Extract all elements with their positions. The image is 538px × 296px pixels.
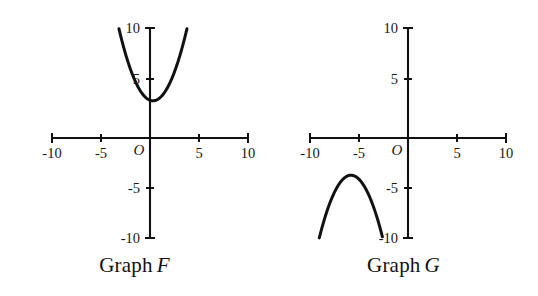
y-tick-label-neg10: -10 (121, 230, 140, 246)
graph-f-plot: -10 -5 5 10 10 5 -5 -10 O (0, 0, 269, 258)
x-tick-label-10: 10 (241, 145, 256, 161)
y-tick-label-neg5: -5 (128, 180, 140, 196)
x-tick-label-5: 5 (195, 145, 202, 161)
y-tick-label-5: 5 (391, 71, 398, 87)
y-tick-label-neg5: -5 (386, 180, 398, 196)
graph-f-tick-labels: -10 -5 5 10 10 5 -5 -10 O (42, 20, 255, 246)
x-tick-label-10: 10 (499, 145, 514, 161)
origin-label: O (134, 142, 145, 158)
graph-f-caption-name: F (153, 253, 170, 277)
graph-g-caption-prefix: Graph (367, 253, 420, 277)
y-tick-label-10: 10 (126, 20, 141, 36)
x-tick-label-neg10: -10 (42, 145, 61, 161)
two-graph-figure: -10 -5 5 10 10 5 -5 -10 O GraphF (0, 0, 538, 296)
graph-f-panel: -10 -5 5 10 10 5 -5 -10 O GraphF (0, 0, 269, 296)
graph-f-parabola-curve (119, 29, 187, 101)
graph-g-axes (310, 28, 506, 238)
graph-g-caption-name: G (421, 253, 440, 277)
x-tick-label-neg5: -5 (353, 145, 365, 161)
x-tick-label-5: 5 (453, 145, 460, 161)
graph-g-tick-labels: -10 -5 5 10 10 5 -5 -10 O (300, 20, 513, 246)
y-tick-label-10: 10 (384, 20, 399, 36)
origin-label: O (392, 142, 403, 158)
graph-g-caption: GraphG (269, 252, 538, 278)
x-tick-label-neg10: -10 (300, 145, 319, 161)
graph-g-plot: -10 -5 5 10 10 5 -5 -10 O (269, 0, 538, 258)
graph-f-axes (52, 28, 248, 238)
x-tick-label-neg5: -5 (95, 145, 107, 161)
graph-g-parabola-curve (319, 175, 382, 238)
graph-f-caption: GraphF (0, 252, 269, 278)
graph-f-caption-prefix: Graph (99, 253, 152, 277)
graph-g-panel: -10 -5 5 10 10 5 -5 -10 O GraphG (269, 0, 538, 296)
